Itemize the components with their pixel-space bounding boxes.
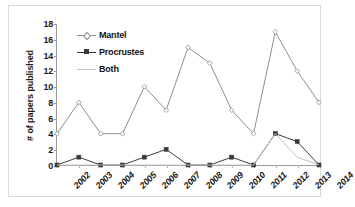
- x-axis-tick-label: 2004: [115, 170, 136, 191]
- series-line: [57, 134, 319, 165]
- x-axis-tick-label: 2003: [94, 170, 115, 191]
- legend-item-label: Procrustes: [99, 47, 144, 57]
- x-axis-tick-label: 2009: [225, 170, 246, 191]
- x-axis-tick-label: 2013: [313, 170, 334, 191]
- data-point-marker: [77, 155, 81, 159]
- legend-item-both[interactable]: Both: [77, 63, 144, 75]
- data-point-marker: [295, 140, 299, 144]
- data-point-marker: [273, 29, 278, 34]
- y-axis-tick-label: 4: [48, 129, 53, 139]
- x-axis-tick-label: 2011: [269, 170, 289, 190]
- chart-legend: MantelProcrustesBoth: [77, 29, 144, 75]
- y-axis-tick-label: 0: [48, 161, 53, 171]
- data-point-marker: [120, 131, 125, 136]
- y-axis-tick-label: 8: [48, 98, 53, 108]
- y-axis-tick-label: 2: [48, 145, 53, 155]
- y-axis-tick-label: 12: [43, 66, 53, 76]
- x-axis-tick-mark: [276, 165, 277, 168]
- data-point-marker: [142, 155, 146, 159]
- x-axis-tick-label: 2005: [137, 170, 158, 191]
- legend-item-procrustes[interactable]: Procrustes: [77, 46, 144, 58]
- legend-item-mantel[interactable]: Mantel: [77, 29, 144, 41]
- series-both: [57, 134, 319, 165]
- legend-swatch-icon: [77, 48, 96, 57]
- x-axis-tick-mark: [298, 165, 299, 168]
- legend-item-label: Mantel: [99, 30, 126, 40]
- legend-swatch-icon: [77, 65, 96, 74]
- x-axis-tick-label: 2002: [72, 170, 93, 191]
- x-axis-tick-label: 2010: [247, 170, 268, 191]
- y-axis-tick-label: 10: [43, 82, 53, 92]
- y-axis-title-text: # of papers published: [25, 50, 35, 141]
- y-axis-tick-label: 14: [43, 51, 53, 61]
- x-axis-tick-label: 2007: [181, 170, 202, 191]
- y-axis-tick-label: 18: [43, 19, 53, 29]
- x-axis-tick-label: 2008: [203, 170, 224, 191]
- legend-item-label: Both: [99, 64, 119, 74]
- figure-frame: # of papers published 024681012141618 20…: [8, 5, 321, 197]
- series-procrustes: [55, 132, 321, 167]
- y-axis-tick-label: 16: [43, 35, 53, 45]
- data-point-marker: [164, 147, 168, 151]
- data-point-marker: [230, 155, 234, 159]
- x-axis-tick-label: 2012: [291, 170, 312, 191]
- y-axis-tick-label: 6: [48, 114, 53, 124]
- y-axis-title: # of papers published: [23, 24, 37, 166]
- legend-swatch-icon: [77, 31, 96, 40]
- x-axis-tick-label: 2006: [159, 170, 180, 191]
- x-axis-tick-label: 2014: [335, 170, 355, 191]
